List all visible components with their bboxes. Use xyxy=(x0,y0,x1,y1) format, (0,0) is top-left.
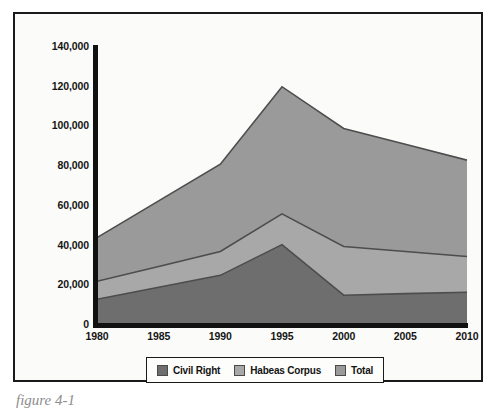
x-tick-label: 2010 xyxy=(456,330,479,342)
legend-entry[interactable]: Civil Right xyxy=(157,365,220,376)
legend-label: Civil Right xyxy=(173,365,220,376)
y-axis-tick-labels: 020,00040,00060,00080,000100,000120,0001… xyxy=(33,14,89,384)
y-tick-label: 100,000 xyxy=(52,119,89,131)
y-tick-label: 40,000 xyxy=(57,239,89,251)
y-tick-label: 140,000 xyxy=(52,40,89,52)
legend-swatch-total xyxy=(335,365,346,376)
area-chart-svg xyxy=(97,47,467,325)
y-tick-label: 20,000 xyxy=(57,278,89,290)
y-tick-label: 120,000 xyxy=(52,80,89,92)
x-axis-line xyxy=(93,323,468,328)
x-tick-label: 1995 xyxy=(271,330,294,342)
legend-swatch-habeas-corpus xyxy=(234,365,245,376)
x-tick-label: 1980 xyxy=(86,330,109,342)
figure-caption: figure 4-1 xyxy=(16,392,75,408)
y-tick-label: 80,000 xyxy=(57,159,89,171)
x-tick-label: 2000 xyxy=(332,330,355,342)
legend-swatch-civil-right xyxy=(157,365,168,376)
legend-label: Total xyxy=(351,365,373,376)
legend-entry[interactable]: Habeas Corpus xyxy=(234,365,321,376)
y-tick-label: 60,000 xyxy=(57,199,89,211)
x-tick-label: 1985 xyxy=(147,330,170,342)
chart-plot-area xyxy=(97,47,467,325)
figure-page: 020,00040,00060,00080,000100,000120,0001… xyxy=(0,0,497,408)
legend-label: Habeas Corpus xyxy=(250,365,321,376)
y-axis-line xyxy=(93,45,98,328)
figure-frame: 020,00040,00060,00080,000100,000120,0001… xyxy=(13,12,483,382)
x-axis-tick-labels: 1980198519901995200020052010 xyxy=(15,330,485,350)
x-tick-label: 2005 xyxy=(394,330,417,342)
chart-legend: Civil RightHabeas CorpusTotal xyxy=(146,357,384,383)
y-tick-label: 0 xyxy=(83,318,89,330)
legend-entry[interactable]: Total xyxy=(335,365,373,376)
x-tick-label: 1990 xyxy=(209,330,232,342)
